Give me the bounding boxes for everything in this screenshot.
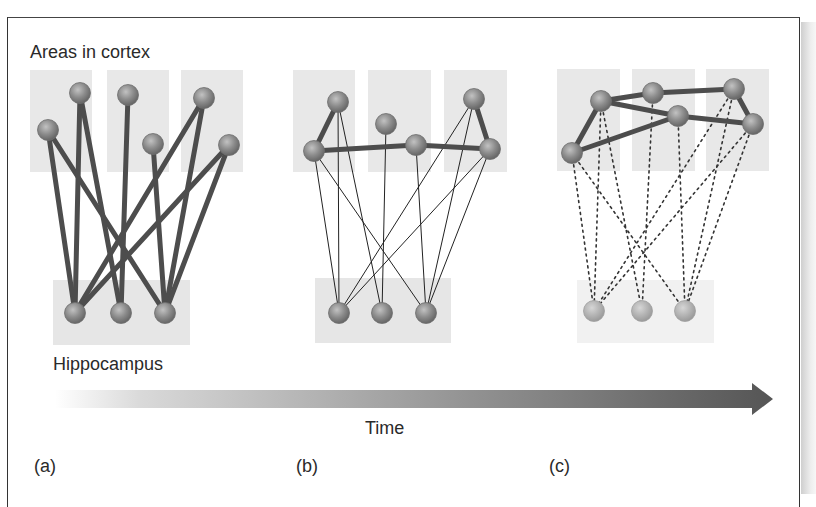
cortex-neuron-node xyxy=(376,114,397,135)
hippocampus-neuron-node xyxy=(65,303,86,324)
cortex-neuron-node xyxy=(143,134,164,155)
cortex-label: Areas in cortex xyxy=(30,42,150,63)
panel-c-label: (c) xyxy=(549,456,570,477)
cortex-neuron-node xyxy=(480,139,501,160)
cortex-neuron-node xyxy=(328,92,349,113)
cortex-neuron-node xyxy=(724,79,745,100)
cortex-area-box xyxy=(107,70,169,172)
panel-c xyxy=(557,69,769,343)
cortex-neuron-node xyxy=(219,135,240,156)
panel-b xyxy=(293,70,507,343)
hippocampus-neuron-node xyxy=(632,301,653,322)
hippocampus-neuron-node xyxy=(416,303,437,324)
time-arrow xyxy=(55,383,773,415)
cortex-neuron-node xyxy=(118,85,139,106)
hippocampus-neuron-node xyxy=(155,303,176,324)
hippocampus-neuron-node xyxy=(675,301,696,322)
hippocampus-neuron-node xyxy=(372,303,393,324)
hippocampus-neuron-node xyxy=(584,301,605,322)
cortex-neuron-node xyxy=(743,114,764,135)
cortex-neuron-node xyxy=(194,88,215,109)
hippocampal-connection xyxy=(426,149,490,313)
hippocampus-neuron-node xyxy=(329,303,350,324)
panels-layer xyxy=(30,69,769,345)
panel-a-label: (a) xyxy=(34,456,56,477)
hippocampus-label: Hippocampus xyxy=(53,354,163,375)
time-label: Time xyxy=(365,418,404,439)
panel-b-label: (b) xyxy=(296,456,318,477)
cortex-neuron-node xyxy=(591,91,612,112)
cortex-neuron-node xyxy=(668,106,689,127)
arrow-shape xyxy=(55,383,773,415)
cortex-area-box xyxy=(293,70,355,172)
cortex-neuron-node xyxy=(643,83,664,104)
cortex-neuron-node xyxy=(70,83,91,104)
cortex-neuron-node xyxy=(304,141,325,162)
hippocampus-neuron-node xyxy=(111,303,132,324)
panel-a xyxy=(30,70,243,345)
cortex-neuron-node xyxy=(38,120,59,141)
cortex-neuron-node xyxy=(464,89,485,110)
cortex-neuron-node xyxy=(562,143,583,164)
cortex-neuron-node xyxy=(406,135,427,156)
